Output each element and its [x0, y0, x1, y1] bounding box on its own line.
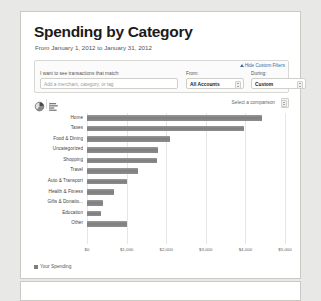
axis-tick-label: $3,000 — [199, 247, 212, 252]
chart-row: Uncategorized — [34, 145, 289, 156]
chart-category-label: Auto & Transport — [34, 178, 83, 183]
legend-swatch — [34, 265, 38, 269]
next-card-edge — [20, 281, 301, 301]
axis-tick-label: $4,000 — [239, 247, 252, 252]
chart-bar-track — [87, 200, 285, 206]
hide-custom-filters-label: Hide Custom Filters — [245, 63, 285, 68]
chart-bar[interactable] — [87, 126, 244, 132]
chart-bar[interactable] — [87, 158, 157, 164]
chart-row: Health & Fitness — [34, 187, 289, 198]
chart-bar[interactable] — [87, 179, 127, 185]
chart-bar[interactable] — [87, 200, 103, 206]
chart-category-label: Education — [34, 210, 83, 215]
chart-category-label: Shopping — [34, 157, 83, 162]
chart-bar-track — [87, 136, 285, 142]
chart-row: Travel — [34, 166, 289, 177]
chart-row: Auto & Transport — [34, 177, 289, 188]
chart-bar[interactable] — [87, 211, 101, 217]
chart-bar[interactable] — [87, 115, 262, 121]
chart-bar[interactable] — [87, 221, 127, 227]
chart-category-label: Uncategorized — [34, 146, 83, 151]
axis-tick-label: $5,000 — [278, 247, 291, 252]
account-select-value: All Accounts — [190, 79, 220, 90]
during-select[interactable]: Custom — [251, 78, 306, 89]
chart-row: Taxes — [34, 124, 289, 135]
filter-panel: Hide Custom Filters I want to see transa… — [34, 60, 289, 93]
chart-bar-track — [87, 179, 285, 185]
account-select[interactable]: All Accounts — [186, 78, 244, 89]
chart-bar-track — [87, 158, 285, 164]
chart-plot-area: HomeTaxesFood & DiningUncategorizedShopp… — [34, 113, 289, 261]
search-input[interactable]: Add a merchant, category, or tag — [40, 78, 178, 89]
hide-custom-filters-link[interactable]: Hide Custom Filters — [240, 63, 285, 68]
chart-bar[interactable] — [87, 136, 170, 142]
chevron-updown-icon — [281, 100, 287, 107]
chart-row: Shopping — [34, 155, 289, 166]
chart-row: Education — [34, 208, 289, 219]
chart-bar-track — [87, 115, 285, 121]
chart-bar[interactable] — [87, 147, 158, 153]
axis-tick-label: $1,000 — [120, 247, 133, 252]
chevron-updown-icon — [235, 81, 241, 89]
match-label: I want to see transactions that match: — [40, 71, 119, 76]
page-title: Spending by Category — [34, 23, 193, 41]
comparison-label: Select a comparison — [232, 100, 275, 105]
triangle-up-icon — [240, 64, 244, 67]
chart-bars: HomeTaxesFood & DiningUncategorizedShopp… — [34, 113, 289, 230]
chart-bar-track — [87, 126, 285, 132]
legend-label: Your Spending — [40, 264, 71, 269]
chart-category-label: Health & Fitness — [34, 189, 83, 194]
chevron-updown-icon — [297, 81, 303, 89]
comparison-select[interactable] — [281, 98, 289, 108]
chart-category-label: Taxes — [34, 125, 83, 130]
chart-x-axis: $0$1,000$2,000$3,000$4,000$5,000 — [87, 244, 285, 254]
chart-category-label: Other — [34, 220, 83, 225]
chart-bar-track — [87, 147, 285, 153]
chart-category-label: Food & Dining — [34, 136, 83, 141]
chart-bar-track — [87, 189, 285, 195]
chart-category-label: Home — [34, 115, 83, 120]
chart-row: Home — [34, 113, 289, 124]
during-label: During: — [251, 71, 266, 76]
chart-bar[interactable] — [87, 168, 138, 174]
chart-legend: Your Spending — [34, 264, 71, 269]
toolbar-divider — [46, 99, 47, 109]
axis-tick-label: $0 — [85, 247, 90, 252]
chart-bar[interactable] — [87, 189, 114, 195]
chart-row: Food & Dining — [34, 134, 289, 145]
chart-bar-track — [87, 221, 285, 227]
date-range-subtitle: From January 1, 2012 to January 31, 2012 — [35, 44, 152, 51]
chart-row: Other — [34, 219, 289, 230]
report-card: Spending by Category From January 1, 201… — [20, 11, 301, 279]
chart-category-label: Travel — [34, 167, 83, 172]
chart-bar-track — [87, 211, 285, 217]
during-select-value: Custom — [255, 79, 273, 90]
from-label: From: — [186, 71, 199, 76]
chart-row: Gifts & Donatio... — [34, 198, 289, 209]
chart-bar-track — [87, 168, 285, 174]
pie-chart-icon[interactable] — [34, 98, 45, 109]
bar-chart-icon[interactable] — [48, 98, 59, 109]
axis-tick-label: $2,000 — [159, 247, 172, 252]
chart-category-label: Gifts & Donatio... — [34, 199, 83, 204]
chart-toolbar: Select a comparison — [34, 98, 289, 112]
